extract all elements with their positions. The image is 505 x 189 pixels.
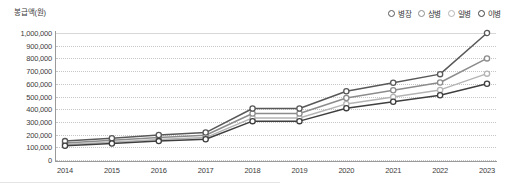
data-point-marker (344, 106, 349, 111)
x-axis-tick-label: 2017 (198, 166, 214, 175)
data-point-marker (438, 72, 443, 77)
y-axis-tick-label: 1,000,000 (0, 29, 52, 38)
x-axis-tick-label: 2016 (151, 166, 167, 175)
y-axis-tick-label: 400,000 (0, 105, 52, 114)
y-axis-title: 봉급액(원) (14, 6, 46, 17)
plot-area (56, 33, 496, 160)
x-axis-tick-label: 2022 (432, 166, 448, 175)
legend-item-0[interactable]: 병장 (388, 8, 411, 19)
data-point-marker (203, 130, 208, 135)
series-0 (62, 30, 489, 143)
legend-item-label: 일병 (458, 8, 471, 19)
x-axis-tick-label: 2014 (57, 166, 73, 175)
data-point-marker (156, 139, 161, 144)
gridline (56, 160, 496, 161)
data-point-marker (62, 143, 67, 148)
data-point-marker (438, 80, 443, 85)
legend-item-3[interactable]: 이병 (478, 8, 501, 19)
y-axis-tick-label: 0 (0, 156, 52, 165)
data-point-marker (297, 106, 302, 111)
y-axis-tick-label: 700,000 (0, 67, 52, 76)
legend-item-label: 이병 (488, 8, 501, 19)
data-point-marker (297, 119, 302, 124)
x-axis-tick-labels: 2014201520162017201820192020202120222023 (56, 166, 496, 180)
legend-item-label: 병장 (398, 8, 411, 19)
series-layer (56, 33, 496, 160)
y-axis-tick-label: 900,000 (0, 41, 52, 50)
legend-marker-icon (388, 10, 395, 17)
data-point-marker (438, 87, 443, 92)
x-axis-tick-label: 2018 (245, 166, 261, 175)
data-point-marker (391, 88, 396, 93)
data-point-marker (203, 137, 208, 142)
y-axis-tick-label: 200,000 (0, 130, 52, 139)
y-axis-tick-label: 100,000 (0, 143, 52, 152)
series-line (65, 58, 487, 143)
y-axis-tick-label: 300,000 (0, 117, 52, 126)
chart-screenshot: 봉급액(원) 병장상병일병이병 1,000,000900,000800,0007… (0, 0, 505, 189)
legend-marker-icon (448, 10, 455, 17)
bottom-divider (0, 182, 280, 183)
series-1 (62, 56, 489, 146)
x-axis-tick-label: 2023 (479, 166, 495, 175)
x-axis-tick-label: 2019 (291, 166, 307, 175)
x-axis-tick-label: 2020 (338, 166, 354, 175)
x-axis-tick-label: 2021 (385, 166, 401, 175)
data-point-marker (484, 30, 489, 35)
data-point-marker (156, 132, 161, 137)
series-3 (62, 81, 489, 148)
x-axis-line (55, 161, 497, 162)
data-point-marker (250, 106, 255, 111)
data-point-marker (109, 141, 114, 146)
series-line (65, 33, 487, 141)
legend-marker-icon (418, 10, 425, 17)
data-point-marker (484, 71, 489, 76)
y-axis-tick-label: 500,000 (0, 92, 52, 101)
data-point-marker (438, 93, 443, 98)
x-axis-tick-label: 2015 (104, 166, 120, 175)
data-point-marker (391, 80, 396, 85)
legend-item-label: 상병 (428, 8, 441, 19)
y-axis-tick-label: 600,000 (0, 79, 52, 88)
legend-marker-icon (478, 10, 485, 17)
data-point-marker (484, 56, 489, 61)
data-point-marker (344, 89, 349, 94)
data-point-marker (391, 99, 396, 104)
y-axis-tick-label: 800,000 (0, 54, 52, 63)
data-point-marker (484, 81, 489, 86)
chart-legend: 병장상병일병이병 (388, 8, 501, 19)
data-point-marker (344, 95, 349, 100)
legend-item-1[interactable]: 상병 (418, 8, 441, 19)
data-point-marker (109, 136, 114, 141)
data-point-marker (250, 119, 255, 124)
legend-item-2[interactable]: 일병 (448, 8, 471, 19)
y-axis-tick-labels: 1,000,000900,000800,000700,000600,000500… (0, 33, 52, 160)
